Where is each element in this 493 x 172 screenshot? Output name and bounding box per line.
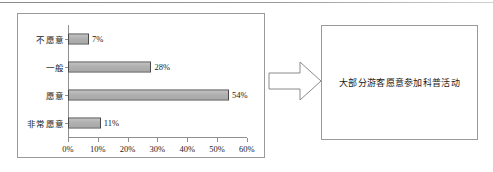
bar-value-label: 7% [92,34,103,44]
x-axis-tick [68,138,69,142]
x-axis-tick-label: 30% [150,144,166,154]
x-axis-tick-label: 60% [239,144,255,154]
category-label: 愿意 [46,89,64,101]
x-axis-tick [187,138,188,142]
x-axis-tick [157,138,158,142]
x-axis-tick [247,138,248,142]
bar-value-label: 28% [154,62,170,72]
conclusion-text: 大部分游客愿意参加科普活动 [339,76,460,89]
chart-plot-area: 不愿意 7% 一般 28% 愿意 54% 非常愿意 11% 0% 10% 20%… [18,14,266,159]
x-axis-tick [128,138,129,142]
x-axis-tick-label: 40% [179,144,195,154]
bar-value-label: 54% [232,90,248,100]
bar [68,118,101,129]
x-axis-tick [217,138,218,142]
bar-value-label: 11% [104,118,119,128]
category-label: 非常愿意 [27,117,64,129]
top-divider [0,2,493,3]
right-block-arrow-icon [268,60,322,102]
bar [68,90,229,101]
x-axis-tick-label: 20% [120,144,136,154]
category-label: 不愿意 [36,33,64,45]
conclusion-panel: 大部分游客愿意参加科普活动 [321,25,478,140]
bar-chart-panel: 不愿意 7% 一般 28% 愿意 54% 非常愿意 11% 0% 10% 20%… [17,13,265,158]
bar [68,34,89,45]
x-axis-tick-label: 10% [90,144,106,154]
x-axis-tick-label: 0% [62,144,73,154]
x-axis-tick [98,138,99,142]
bar [68,62,151,73]
x-axis-tick-label: 50% [209,144,225,154]
category-label: 一般 [46,61,64,73]
